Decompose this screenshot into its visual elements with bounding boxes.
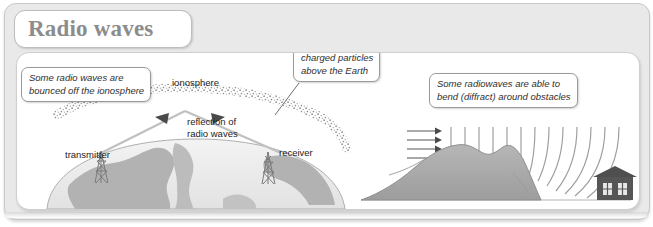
hill-obstacle (361, 145, 541, 200)
figure-frame-shadow (4, 212, 648, 218)
label-reflection-line1: reflection of (187, 116, 238, 128)
label-transmitter: transmitter (65, 149, 110, 161)
label-reflection-of-radio-waves: reflection of radio waves (187, 116, 238, 141)
house-receiver (593, 166, 637, 200)
callout-diffract-line2: bend (diffract) around obstacles (437, 91, 571, 104)
label-receiver: receiver (279, 147, 313, 159)
figure-content-panel: Some radio waves are bounced off the ion… (16, 52, 640, 210)
callout-charged-line1: charged particles (301, 52, 373, 65)
callout-diffraction: Some radiowaves are able to bend (diffra… (429, 73, 578, 108)
callout-bounced-off-ionosphere: Some radio waves are bounced off the ion… (21, 67, 151, 102)
callout-charged-particles: charged particles above the Earth (293, 52, 380, 82)
right-diagram-graphics (361, 127, 637, 200)
page-title: Radio waves (15, 16, 154, 42)
callout-bounced-line1: Some radio waves are (29, 72, 144, 85)
label-reflection-line2: radio waves (187, 128, 238, 140)
figure-title-pill: Radio waves (14, 10, 192, 48)
callout-diffract-line1: Some radiowaves are able to (437, 78, 571, 91)
callout-bounced-line2: bounced off the ionosphere (29, 85, 144, 98)
label-ionosphere: ionosphere (172, 77, 219, 89)
figure-root: Radio waves (0, 0, 653, 227)
callout-charged-line2: above the Earth (301, 65, 373, 78)
incoming-wave-arrows (407, 131, 435, 158)
